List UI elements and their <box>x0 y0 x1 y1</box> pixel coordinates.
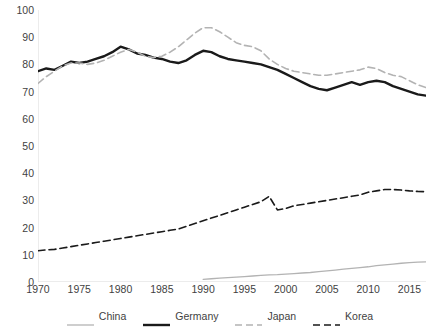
x-tick-label: 1995 <box>227 284 261 295</box>
y-tick-label: 90 <box>2 32 34 42</box>
legend-item-korea[interactable]: Korea <box>313 311 373 322</box>
x-tick-label: 1970 <box>21 284 55 295</box>
series-line-china <box>203 262 426 279</box>
y-tick-label: 20 <box>2 223 34 233</box>
line-chart: 0102030405060708090100 19701975198019851… <box>0 0 440 331</box>
series-line-korea <box>38 190 426 251</box>
y-axis: 0102030405060708090100 <box>0 0 34 292</box>
legend-label: China <box>99 311 126 322</box>
x-tick-label: 2000 <box>269 284 303 295</box>
legend-label: Korea <box>345 311 373 322</box>
y-tick-label: 60 <box>2 114 34 124</box>
series-line-germany <box>38 47 426 96</box>
y-tick-label: 30 <box>2 195 34 205</box>
x-tick-label: 1975 <box>62 284 96 295</box>
x-tick-label: 2010 <box>351 284 385 295</box>
y-tick-label: 40 <box>2 168 34 178</box>
y-tick-label: 100 <box>2 5 34 15</box>
legend-label: Japan <box>267 311 296 322</box>
plot-area <box>38 10 426 282</box>
y-tick-label: 80 <box>2 59 34 69</box>
y-tick-label: 70 <box>2 87 34 97</box>
x-tick-label: 1980 <box>104 284 138 295</box>
legend-item-germany[interactable]: Germany <box>143 311 218 322</box>
legend-label: Germany <box>175 311 218 322</box>
chart-svg <box>38 10 426 282</box>
y-tick-label: 50 <box>2 141 34 151</box>
legend-item-china[interactable]: China <box>67 311 126 322</box>
chart-legend: ChinaGermanyJapanKorea <box>0 306 440 326</box>
x-tick-label: 2005 <box>310 284 344 295</box>
x-axis: 1970197519801985199019952000200520102015 <box>0 284 440 300</box>
x-tick-label: 1985 <box>145 284 179 295</box>
y-tick-label: 10 <box>2 250 34 260</box>
x-tick-label: 2015 <box>392 284 426 295</box>
x-tick-label: 1990 <box>186 284 220 295</box>
legend-item-japan[interactable]: Japan <box>235 311 296 322</box>
